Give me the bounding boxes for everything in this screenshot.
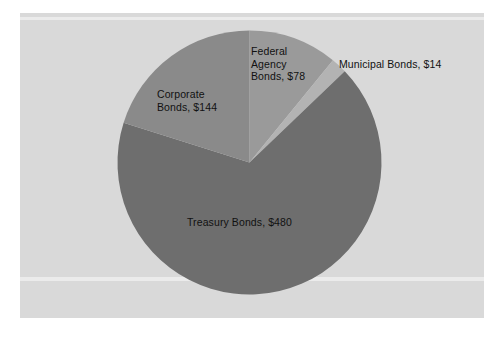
pie-chart-figure: Federal Agency Bonds, $78 Municipal Bond…	[0, 0, 502, 339]
slice-label-corporate-bonds: Corporate Bonds, $144	[157, 88, 217, 113]
slice-label-federal-agency-bonds: Federal Agency Bonds, $78	[251, 45, 305, 83]
slice-label-municipal-bonds: Municipal Bonds, $14	[339, 58, 441, 71]
slice-label-treasury-bonds: Treasury Bonds, $480	[187, 216, 292, 229]
